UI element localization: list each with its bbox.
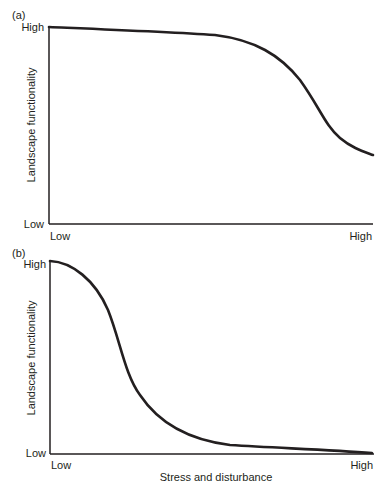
panel-a-curve xyxy=(49,27,373,155)
panel-b-curve xyxy=(50,261,372,453)
panel-a: (a) High Low Low High Landscape function… xyxy=(12,9,373,242)
panel-a-y-axis-title: Landscape functionality xyxy=(25,67,37,182)
panel-b-y-axis-title: Landscape functionality xyxy=(25,300,37,415)
figure: (a) High Low Low High Landscape function… xyxy=(0,0,387,492)
panel-b: (b) High Low Low High Stress and disturb… xyxy=(12,247,374,483)
panel-b-x-low-label: Low xyxy=(51,459,71,471)
panel-b-x-axis-title: Stress and disturbance xyxy=(160,471,273,483)
panel-a-x-low-label: Low xyxy=(50,230,70,242)
panel-a-y-high-label: High xyxy=(21,21,44,33)
panel-a-x-high-label: High xyxy=(349,230,372,242)
panel-b-y-low-label: Low xyxy=(26,447,46,459)
panel-b-x-high-label: High xyxy=(350,459,373,471)
panel-a-label: (a) xyxy=(12,9,25,21)
panel-b-y-high-label: High xyxy=(23,258,46,270)
panel-a-y-low-label: Low xyxy=(24,218,44,230)
